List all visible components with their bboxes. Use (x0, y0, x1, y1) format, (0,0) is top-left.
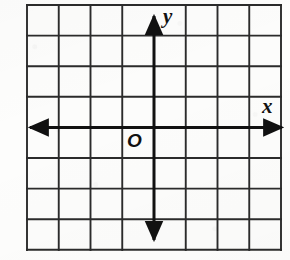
x-axis-label: x (262, 96, 273, 117)
coordinate-plane-canvas (0, 0, 290, 260)
coordinate-plane-figure: y x O (0, 0, 290, 260)
origin-label: O (127, 131, 142, 150)
y-axis-label: y (163, 6, 172, 27)
